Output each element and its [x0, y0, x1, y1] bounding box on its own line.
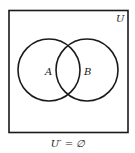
universe-label: U: [116, 13, 125, 24]
caption: U′ = ∅: [51, 138, 86, 149]
set-a-label: A: [44, 66, 52, 77]
venn-diagram: U A B U′ = ∅: [0, 0, 135, 153]
universe-rectangle: [9, 11, 128, 133]
set-b-label: B: [83, 66, 91, 77]
